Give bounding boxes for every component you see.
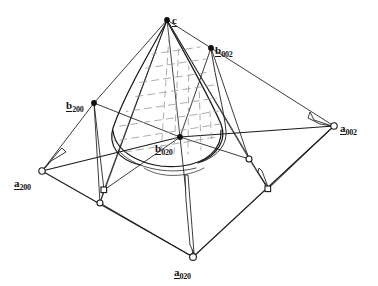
- label-b200: b200: [66, 96, 84, 114]
- line-diagram-svg: [0, 0, 378, 286]
- vertex-base-left-mid: [97, 200, 103, 206]
- label-a200: a200: [14, 174, 31, 192]
- label-b200-sub: 200: [72, 105, 83, 114]
- label-a002-sub: 002: [346, 128, 357, 137]
- vertex-a002: [331, 123, 337, 129]
- label-b002: b002: [215, 41, 233, 59]
- outer-edges: [42, 20, 334, 171]
- vertex-a200: [39, 168, 45, 174]
- vertex-b200: [91, 100, 97, 106]
- label-b020: b020: [155, 139, 173, 157]
- ctrl-left-square: [101, 187, 107, 193]
- figure-canvas: c b002 b200 b020 a002 a200 a020: [0, 0, 378, 286]
- vertex-c: [164, 17, 170, 23]
- filled-vertices: [91, 17, 214, 140]
- label-a020-sub: 020: [180, 272, 191, 281]
- vertex-a020: [190, 254, 197, 261]
- vertex-b002: [208, 45, 214, 51]
- label-c: c: [172, 11, 177, 29]
- label-a200-sub: 200: [20, 183, 31, 192]
- label-b020-sub: 020: [161, 148, 172, 157]
- label-a002: a002: [340, 119, 357, 137]
- ctrl-right-square: [265, 186, 271, 192]
- vertex-b020: [177, 134, 183, 140]
- vertex-base-right-mid: [246, 156, 252, 162]
- label-c-base: c: [172, 14, 177, 27]
- label-a020: a020: [174, 263, 191, 281]
- label-b002-sub: 002: [221, 50, 232, 59]
